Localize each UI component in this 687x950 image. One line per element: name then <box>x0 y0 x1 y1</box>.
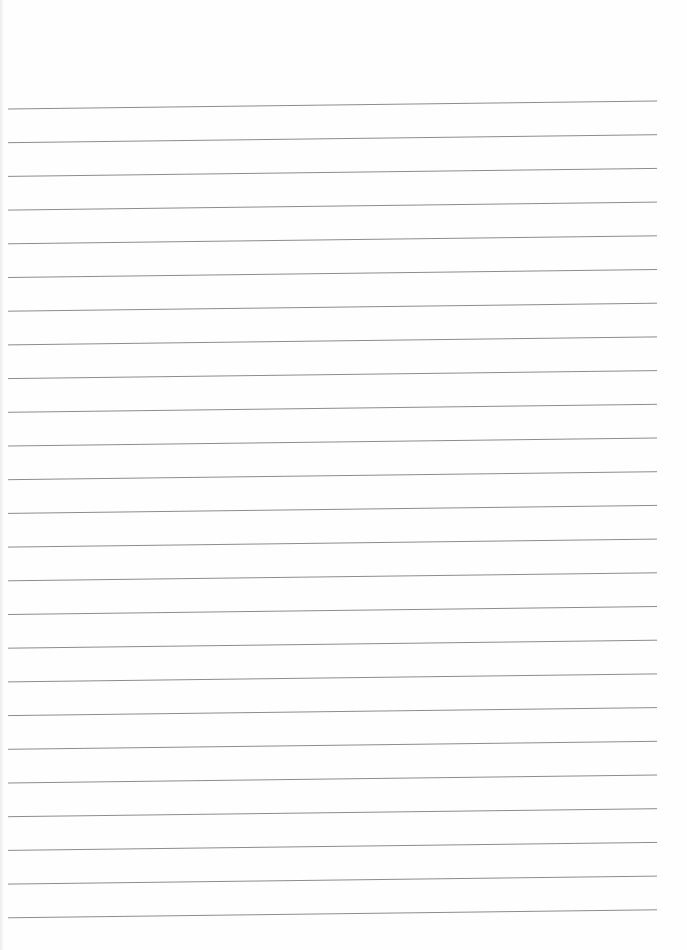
ruled-line <box>8 236 657 244</box>
ruled-line <box>8 303 657 311</box>
ruled-line <box>8 539 657 547</box>
ruled-line <box>8 842 657 850</box>
ruled-line <box>8 202 657 210</box>
ruled-line <box>8 371 657 379</box>
ruled-line <box>8 674 657 682</box>
ruled-line <box>8 607 657 615</box>
ruled-line <box>8 775 657 783</box>
ruled-lines <box>0 0 687 950</box>
lined-paper-sheet <box>0 0 687 950</box>
ruled-line <box>8 270 657 278</box>
ruled-line <box>8 741 657 749</box>
ruled-line <box>8 101 657 109</box>
ruled-line <box>8 809 657 817</box>
ruled-line <box>8 438 657 446</box>
ruled-line <box>8 135 657 143</box>
ruled-line <box>8 876 657 884</box>
ruled-line <box>8 573 657 581</box>
ruled-line <box>8 708 657 716</box>
ruled-line <box>8 910 657 918</box>
ruled-line <box>8 404 657 412</box>
ruled-line <box>8 505 657 513</box>
ruled-line <box>8 168 657 176</box>
ruled-line <box>8 640 657 648</box>
ruled-line <box>8 337 657 345</box>
ruled-line <box>8 472 657 480</box>
